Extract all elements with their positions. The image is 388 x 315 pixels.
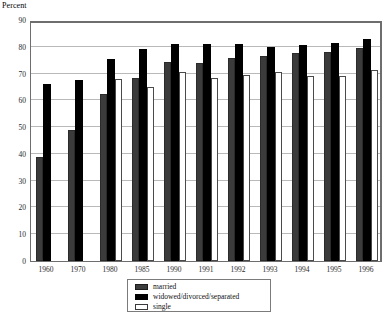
bar-married [68,130,75,261]
bar-wds [171,44,178,261]
x-axis-tick-label: 1990 [167,265,182,274]
bar-married [260,56,267,261]
bar-single [339,76,346,261]
x-axis-tick-label: 1960 [39,265,54,274]
y-axis-tick-label: 90 [2,17,26,25]
legend-item-single: single [135,302,270,311]
x-axis-ticks: 1960197019801985199019911992199319941995… [30,265,382,277]
x-axis-tick-label: 1980 [103,265,118,274]
x-axis-tick-label: 1970 [71,265,86,274]
x-axis-tick-label: 1995 [327,265,342,274]
bar-married [36,157,43,261]
plot-area [30,21,382,262]
bar-wds [267,47,274,261]
x-axis-tick-label: 1991 [199,265,214,274]
bar-single [307,76,314,261]
bar-married [196,63,203,261]
bar-married [356,48,363,261]
bar-married [164,62,171,261]
bar-wds [299,45,306,261]
bar-wds [203,44,210,261]
y-axis-tick-label: 0 [2,258,26,266]
bar-single [115,79,122,261]
bar-single [179,72,186,261]
chart-root: Percent 0102030405060708090 196019701980… [0,0,388,315]
y-axis-title: Percent [2,1,27,11]
y-axis-tick-label: 30 [2,178,26,186]
y-axis-tick-label: 10 [2,231,26,239]
bar-wds [107,59,114,261]
bar-married [292,53,299,261]
y-axis-tick-label: 40 [2,151,26,159]
bar-married [228,58,235,262]
x-axis-tick-label: 1996 [359,265,374,274]
x-axis-tick-label: 1985 [135,265,150,274]
y-axis-tick-label: 50 [2,124,26,132]
legend-item-married: married [135,282,270,291]
bar-wds [75,80,82,261]
bar-single [243,75,250,261]
y-axis-tick-label: 80 [2,44,26,52]
bar-married [100,94,107,261]
bar-wds [235,44,242,261]
legend-label-single: single [153,302,171,311]
bar-married [132,78,139,261]
bar-single [147,87,154,261]
bar-wds [331,43,338,261]
bar-wds [139,49,146,261]
legend-swatch-married-icon [135,284,148,290]
bar-single [211,78,218,261]
bar-single [371,70,378,261]
bar-single [275,72,282,261]
legend-label-widowed-divorced-separated: widowed/divorced/separated [153,292,239,301]
bar-married [324,52,331,261]
bar-wds [363,39,370,261]
bar-groups [31,23,380,261]
legend-swatch-single-icon [135,304,148,310]
legend-swatch-widowed-divorced-separated-icon [135,294,148,300]
y-axis-tick-label: 70 [2,71,26,79]
x-axis-tick-label: 1992 [231,265,246,274]
x-axis-tick-label: 1993 [263,265,278,274]
legend-label-married: married [153,282,176,291]
y-axis-tick-label: 60 [2,97,26,105]
chart-legend: married widowed/divorced/separated singl… [127,279,271,312]
y-axis-tick-label: 20 [2,204,26,212]
bar-wds [43,84,50,261]
legend-item-widowed-divorced-separated: widowed/divorced/separated [135,292,270,301]
x-axis-tick-label: 1994 [295,265,310,274]
